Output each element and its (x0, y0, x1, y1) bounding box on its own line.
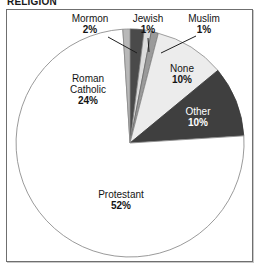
label-protestant-pct: 52% (86, 200, 156, 211)
pie-svg (0, 0, 260, 274)
label-protestant-name: Protestant (86, 189, 156, 200)
label-jewish-pct: 1% (124, 24, 172, 35)
pie-chart: Mormon 2% Jewish 1% Muslim 1% None 10% O… (0, 0, 260, 274)
label-muslim: Muslim 1% (180, 13, 228, 35)
label-jewish: Jewish 1% (124, 13, 172, 35)
label-roman-catholic-name-2: Catholic (57, 84, 119, 95)
label-roman-catholic: Roman Catholic 24% (57, 73, 119, 106)
label-other: Other 10% (174, 106, 222, 128)
label-none-name: None (158, 63, 206, 74)
label-roman-catholic-name-1: Roman (57, 73, 119, 84)
label-none: None 10% (158, 63, 206, 85)
label-mormon-name: Mormon (62, 13, 118, 24)
label-muslim-name: Muslim (180, 13, 228, 24)
label-other-name: Other (174, 106, 222, 117)
label-other-pct: 10% (174, 117, 222, 128)
pie-slices (16, 29, 244, 257)
label-protestant: Protestant 52% (86, 189, 156, 211)
label-muslim-pct: 1% (180, 24, 228, 35)
label-mormon-pct: 2% (62, 24, 118, 35)
label-none-pct: 10% (158, 74, 206, 85)
label-roman-catholic-pct: 24% (57, 95, 119, 106)
label-mormon: Mormon 2% (62, 13, 118, 35)
label-jewish-name: Jewish (124, 13, 172, 24)
